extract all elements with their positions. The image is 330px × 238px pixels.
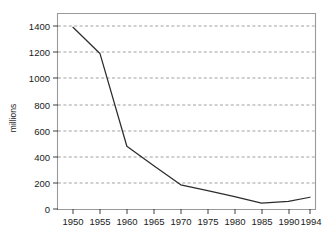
x-tick-label: 1950 <box>62 216 83 227</box>
data-series-group <box>73 27 310 203</box>
x-tick-label: 1960 <box>116 216 137 227</box>
data-line-millions <box>73 27 310 203</box>
chart-container: 1400 1200 1000 800 600 400 200 0 million… <box>0 0 330 238</box>
x-tick-label: 1970 <box>170 216 191 227</box>
y-tick-label: 0 <box>45 204 50 215</box>
y-axis-tick-labels: 1400 1200 1000 800 600 400 200 0 <box>29 21 50 215</box>
plot-frame <box>58 14 316 210</box>
x-tick-label: 1955 <box>89 216 110 227</box>
y-tick-label: 400 <box>34 152 50 163</box>
y-tick-label: 1400 <box>29 21 50 32</box>
y-tick-label: 800 <box>34 100 50 111</box>
x-tick-label: 1975 <box>197 216 218 227</box>
x-tick-label: 1965 <box>143 216 164 227</box>
x-tick-label: 1980 <box>224 216 245 227</box>
y-tick-label: 200 <box>34 178 50 189</box>
y-tick-label: 1200 <box>29 47 50 58</box>
line-chart: 1400 1200 1000 800 600 400 200 0 million… <box>0 0 330 238</box>
y-tick-label: 1000 <box>29 73 50 84</box>
y-axis-title-label: millions <box>8 104 18 132</box>
x-tick-label: 1994 <box>300 216 321 227</box>
x-axis-tick-labels: 1950 1955 1960 1965 1970 1975 1980 1985 … <box>62 216 321 227</box>
y-tick-label: 600 <box>34 126 50 137</box>
y-axis-title: millions <box>8 104 18 132</box>
x-tick-label: 1985 <box>251 216 272 227</box>
x-tick-label: 1990 <box>278 216 299 227</box>
